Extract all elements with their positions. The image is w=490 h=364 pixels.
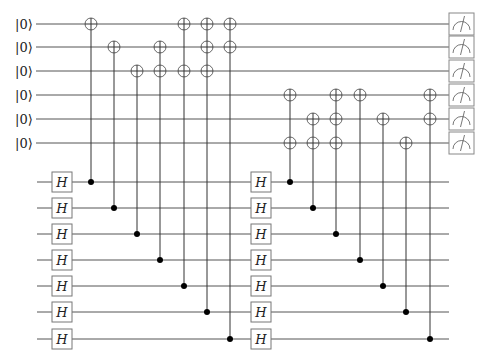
hadamard-gate: H: [52, 302, 72, 322]
hadamard-gate: H: [52, 276, 72, 296]
ket-zero-label: |0⟩: [15, 88, 33, 103]
ancilla-wires: [37, 182, 449, 339]
cnot-target-icon: [201, 65, 213, 77]
qubit-wires: [36, 24, 449, 143]
hadamard-gate: H: [251, 224, 271, 244]
control-dot-icon: [380, 283, 386, 289]
cnot-target-icon: [154, 65, 166, 77]
hadamard-label: H: [55, 332, 68, 347]
control-dot-icon: [427, 336, 433, 342]
hadamard-label: H: [55, 253, 68, 268]
cnot-target-icon: [154, 41, 166, 53]
cnot-target-icon: [178, 65, 190, 77]
initial-state-labels: |0⟩|0⟩|0⟩|0⟩|0⟩|0⟩: [15, 17, 33, 151]
cnot-target-icon: [178, 18, 190, 30]
measurement-meter-icon: [449, 36, 474, 58]
hadamard-label: H: [254, 201, 267, 216]
measurement-meter-icon: [449, 60, 474, 82]
cnot-target-icon: [424, 89, 436, 101]
measurement-meter-icon: [449, 13, 474, 35]
control-dot-icon: [111, 205, 117, 211]
cnot-target-icon: [131, 65, 143, 77]
cnot-target-icon: [284, 137, 296, 149]
cnot-target-icon: [85, 18, 97, 30]
hadamard-gate: H: [251, 276, 271, 296]
hadamard-gate: H: [251, 329, 271, 349]
hadamard-label: H: [254, 253, 267, 268]
hadamard-gate: H: [52, 224, 72, 244]
cnot-target-icon: [330, 113, 342, 125]
cnot-target-icon: [108, 41, 120, 53]
control-dot-icon: [88, 179, 94, 185]
hadamard-gate: H: [52, 172, 72, 192]
cnot-target-icon: [307, 113, 319, 125]
control-dot-icon: [403, 309, 409, 315]
hadamard-gate: H: [251, 198, 271, 218]
control-dot-icon: [134, 231, 140, 237]
control-dot-icon: [357, 257, 363, 263]
control-dot-icon: [227, 336, 233, 342]
control-dot-icon: [204, 309, 210, 315]
cnot-target-icon: [400, 137, 412, 149]
hadamard-label: H: [254, 175, 267, 190]
quantum-circuit-diagram: |0⟩|0⟩|0⟩|0⟩|0⟩|0⟩ HHHHHHHHHHHHHH: [0, 0, 490, 364]
control-dot-icon: [287, 179, 293, 185]
cnot-target-icon: [330, 89, 342, 101]
cnot-target-icon: [224, 18, 236, 30]
hadamard-label: H: [254, 227, 267, 242]
cnot-target-icon: [284, 89, 296, 101]
control-dot-icon: [310, 205, 316, 211]
ket-zero-label: |0⟩: [15, 112, 33, 127]
ket-zero-label: |0⟩: [15, 17, 33, 32]
cnot-target-icon: [377, 113, 389, 125]
measurement-meter-icon: [449, 132, 474, 154]
cnot-target-icon: [224, 41, 236, 53]
hadamard-label: H: [55, 279, 68, 294]
control-dot-icon: [333, 231, 339, 237]
cnot-target-icon: [330, 137, 342, 149]
hadamard-label: H: [55, 201, 68, 216]
hadamard-gate: H: [251, 250, 271, 270]
hadamard-gate: H: [52, 250, 72, 270]
measurement-meter-icon: [449, 84, 474, 106]
ket-zero-label: |0⟩: [15, 64, 33, 79]
hadamard-label: H: [55, 227, 68, 242]
cnot-target-icon: [354, 89, 366, 101]
cnot-target-icon: [424, 113, 436, 125]
hadamard-label: H: [254, 305, 267, 320]
measurement-meter-icon: [449, 108, 474, 130]
cnot-target-icon: [307, 137, 319, 149]
ket-zero-label: |0⟩: [15, 40, 33, 55]
cnot-target-icon: [201, 41, 213, 53]
hadamard-label: H: [55, 175, 68, 190]
measurement-gates: [449, 13, 474, 154]
hadamard-label: H: [254, 279, 267, 294]
ket-zero-label: |0⟩: [15, 136, 33, 151]
hadamard-gate: H: [52, 198, 72, 218]
hadamard-label: H: [55, 305, 68, 320]
cnot-target-icon: [201, 18, 213, 30]
hadamard-gate: H: [251, 302, 271, 322]
control-dot-icon: [181, 283, 187, 289]
hadamard-gate: H: [251, 172, 271, 192]
control-dot-icon: [157, 257, 163, 263]
hadamard-label: H: [254, 332, 267, 347]
hadamard-gate: H: [52, 329, 72, 349]
